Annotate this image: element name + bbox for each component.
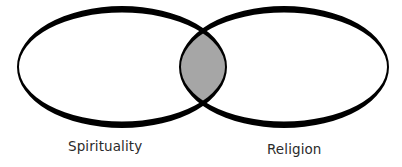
venn-diagram bbox=[0, 0, 402, 167]
religion-label: Religion bbox=[267, 141, 322, 157]
spirituality-label: Spirituality bbox=[68, 138, 142, 154]
